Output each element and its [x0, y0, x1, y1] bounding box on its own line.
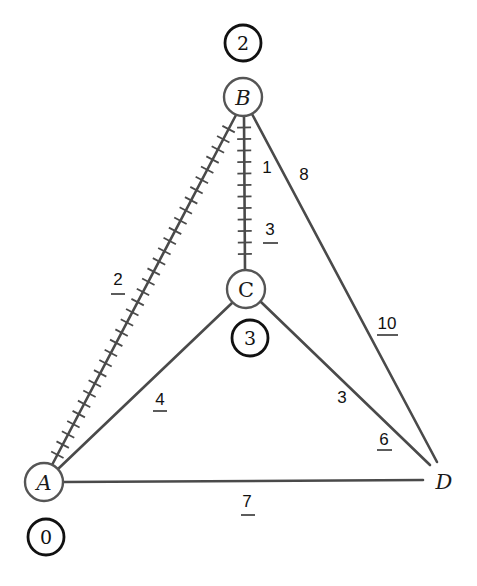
edge-a-c — [58, 303, 232, 469]
node-b-label: B — [234, 86, 250, 110]
weight-a-c: 4 — [155, 390, 164, 409]
node-a-label: A — [34, 471, 51, 495]
node-a: A — [25, 463, 63, 501]
distance-badge-b: 2 — [225, 25, 261, 61]
weight-b-d-8: 8 — [299, 165, 308, 184]
distance-a-value: 0 — [40, 526, 52, 548]
edge-c-d — [261, 302, 430, 465]
edge-b-d — [252, 114, 437, 462]
node-b: B — [224, 78, 262, 116]
weight-b-c-3: 3 — [265, 220, 274, 239]
distance-badge-c: 3 — [232, 320, 268, 356]
node-d: D — [435, 470, 453, 494]
weight-b-c-1: 1 — [262, 158, 271, 177]
weight-a-b: 2 — [113, 270, 122, 289]
distance-b-value: 2 — [237, 32, 249, 54]
graph-diagram: B C A D 2 3 0 2 1 3 8 10 4 — [0, 0, 477, 586]
edge-a-d — [63, 480, 423, 482]
node-d-label: D — [435, 470, 453, 494]
weight-c-d-3: 3 — [337, 388, 346, 407]
distance-badge-a: 0 — [28, 519, 64, 555]
node-c: C — [227, 270, 265, 308]
weight-b-d-10: 10 — [378, 314, 397, 333]
weight-a-d: 7 — [242, 492, 251, 511]
distance-c-value: 3 — [244, 327, 256, 349]
weight-c-d-6: 6 — [379, 430, 388, 449]
edge-a-b — [52, 115, 236, 465]
node-c-label: C — [238, 278, 254, 302]
hatch-marks-a-b — [51, 126, 235, 458]
